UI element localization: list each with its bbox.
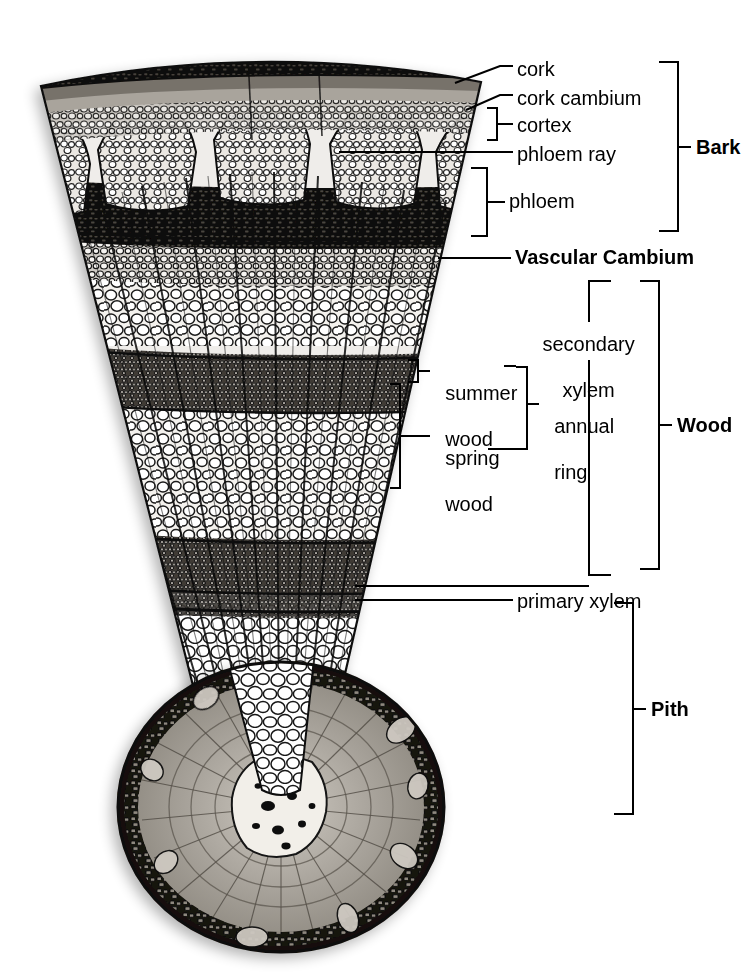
label-primary-xylem: primary xylem xyxy=(517,590,641,613)
label-vascular-cambium: Vascular Cambium xyxy=(515,246,694,269)
label-annual-ring: annual ring xyxy=(543,392,614,484)
bracket-wood xyxy=(640,281,659,569)
bracket-bark xyxy=(659,62,678,231)
bracket-phloem xyxy=(471,168,487,236)
label-secondary-xylem: secondary xylem xyxy=(524,310,642,402)
bracket-cortex xyxy=(487,108,497,140)
label-phloem-ray: phloem ray xyxy=(517,143,616,166)
label-bark: Bark xyxy=(696,136,740,159)
label-wood: Wood xyxy=(677,414,732,437)
label-pith: Pith xyxy=(651,698,689,721)
whole-stem-cross-section xyxy=(118,640,444,952)
stem-anatomy-illustration xyxy=(0,0,744,980)
leader-cork xyxy=(455,66,513,83)
label-cortex: cortex xyxy=(517,114,571,137)
label-spring-wood: spring wood xyxy=(434,424,500,516)
label-annual-ring-line2: ring xyxy=(554,461,587,483)
figure-canvas: cork cork cambium cortex phloem ray phlo… xyxy=(0,0,744,980)
label-cork-cambium: cork cambium xyxy=(517,87,641,110)
label-spring-wood-line1: spring xyxy=(445,447,499,469)
label-spring-wood-line2: wood xyxy=(445,493,493,515)
label-phloem: phloem xyxy=(509,190,575,213)
label-annual-ring-line1: annual xyxy=(554,415,614,437)
bracket-pith xyxy=(614,603,633,814)
label-cork: cork xyxy=(517,58,555,81)
label-summer-wood-line1: summer xyxy=(445,382,517,404)
label-secondary-xylem-line1: secondary xyxy=(542,333,634,355)
